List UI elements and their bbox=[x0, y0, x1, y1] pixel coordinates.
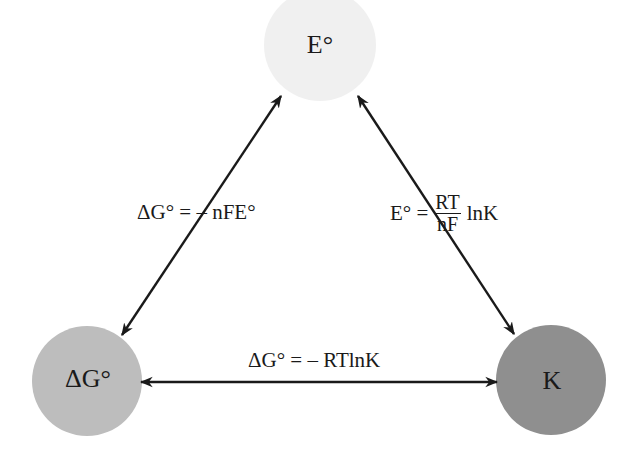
node-k-label: K bbox=[543, 366, 562, 396]
node-deltag-label: ΔG° bbox=[65, 364, 111, 394]
fraction-numerator: RT bbox=[434, 192, 460, 214]
equation-deltag-rtlnk: ΔG° = – RTlnK bbox=[248, 350, 380, 371]
equation-suffix: lnK bbox=[467, 201, 499, 225]
equation-prefix: E° = bbox=[390, 201, 428, 225]
node-e-label: E° bbox=[307, 30, 333, 60]
fraction-denominator: nF bbox=[434, 214, 460, 235]
equation-e-rt-nf-lnk: E° =RTnFlnK bbox=[390, 192, 498, 235]
fraction: RTnF bbox=[434, 192, 460, 235]
equation-deltag-nfe: ΔG° = – nFE° bbox=[137, 202, 256, 223]
